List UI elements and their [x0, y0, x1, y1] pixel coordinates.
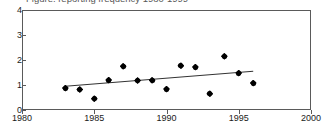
x-axis-tick-mark — [311, 110, 312, 114]
y-axis-tick-label: 4 — [6, 6, 22, 15]
data-point — [121, 64, 126, 69]
data-point — [150, 78, 155, 83]
x-axis-tick-mark — [239, 110, 240, 114]
data-point — [222, 54, 227, 59]
data-point — [164, 87, 169, 92]
data-point — [92, 96, 97, 101]
y-axis-tick-mark — [22, 35, 26, 36]
y-axis-tick-mark — [22, 60, 26, 61]
y-axis: 01234 — [0, 0, 22, 120]
data-point — [77, 87, 82, 92]
x-axis-tick-mark — [94, 110, 95, 114]
x-axis-tick-label: 1980 — [2, 114, 42, 123]
data-point — [236, 71, 241, 76]
x-axis-tick-label: 2000 — [291, 114, 323, 123]
x-axis-tick-label: 1995 — [219, 114, 259, 123]
plot-area — [22, 10, 311, 110]
x-axis-tick-mark — [167, 110, 168, 114]
x-axis-tick-label: 1985 — [74, 114, 114, 123]
y-axis-tick-label: 1 — [6, 81, 22, 90]
trend-line — [22, 10, 311, 110]
chart-title: Figure: reporting frequency 1980-1999 — [26, 0, 188, 4]
x-axis-tick-mark — [22, 110, 23, 114]
y-axis-tick-mark — [22, 85, 26, 86]
data-point — [63, 86, 68, 91]
data-point — [178, 63, 183, 68]
y-axis-tick-label: 3 — [6, 31, 22, 40]
data-point — [251, 81, 256, 86]
x-axis-tick-label: 1990 — [147, 114, 187, 123]
scatter-chart-figure: Figure: reporting frequency 1980-1999 01… — [0, 0, 323, 135]
y-axis-tick-label: 2 — [6, 56, 22, 65]
data-point — [193, 65, 198, 70]
clipped-title-strip: Figure: reporting frequency 1980-1999 — [0, 0, 323, 5]
y-axis-tick-mark — [22, 10, 26, 11]
data-point — [135, 78, 140, 83]
data-point — [207, 91, 212, 96]
data-point — [106, 78, 111, 83]
